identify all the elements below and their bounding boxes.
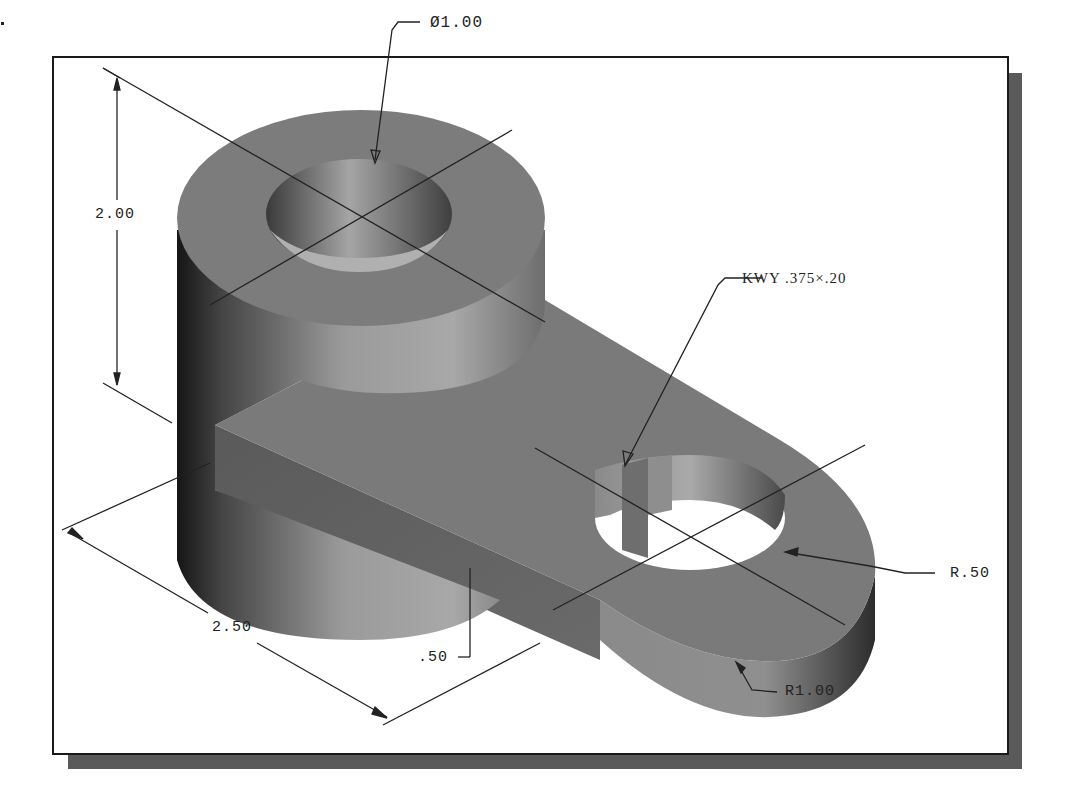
- small-radius-label: R.50: [950, 566, 990, 581]
- height-dim-ext-bottom: [103, 383, 172, 423]
- part-illustration: [0, 0, 1069, 796]
- keyway-label: KWY .375×.20: [742, 271, 846, 286]
- length-dim-ext-right: [383, 643, 540, 725]
- drawing-canvas: Ø1.00 2.00 KWY .375×.20 R.50 R1.00 2.50 …: [0, 0, 1069, 796]
- large-radius-label: R1.00: [785, 684, 835, 699]
- thickness-label: .50: [418, 650, 448, 665]
- height-dim-line-top-ext: [103, 68, 120, 78]
- hole-diameter-label: Ø1.00: [430, 15, 483, 31]
- keyway-face-light: [648, 455, 672, 515]
- length-label: 2.50: [212, 620, 252, 635]
- keyway-face: [622, 458, 648, 558]
- height-label: 2.00: [95, 207, 135, 222]
